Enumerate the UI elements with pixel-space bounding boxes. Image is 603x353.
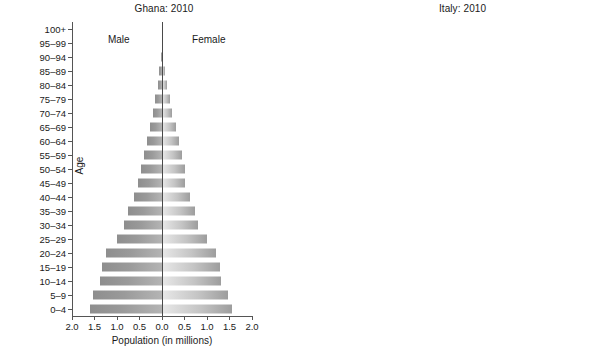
bar-female xyxy=(162,263,220,272)
y-axis-tick-label: 70–74 xyxy=(40,108,66,119)
bar-female xyxy=(162,221,198,230)
bar-female xyxy=(162,235,207,244)
bar-male xyxy=(93,291,162,300)
y-axis-tick-label: 30–34 xyxy=(40,220,66,231)
x-axis-tick-label: 0.5 xyxy=(133,321,146,332)
y-axis-tick-label: 45–49 xyxy=(40,178,66,189)
center-axis-ghana xyxy=(162,22,163,316)
x-axis-tick-label: 1.5 xyxy=(223,321,236,332)
y-axis-tick xyxy=(68,183,72,184)
x-axis-tick xyxy=(72,316,73,320)
y-axis-tick-label: 0–4 xyxy=(50,304,66,315)
population-pyramid-figure: Ghana: 2010 Male Female Population (in m… xyxy=(0,0,603,353)
bar-female xyxy=(162,249,216,258)
bar-female xyxy=(162,137,179,146)
bar-female xyxy=(162,81,167,90)
bar-female xyxy=(162,123,176,132)
y-axis-tick-label: 50–54 xyxy=(40,164,66,175)
bar-female xyxy=(162,193,190,202)
bar-male xyxy=(128,207,162,216)
y-axis-tick-label: 15–19 xyxy=(40,262,66,273)
bar-male xyxy=(147,137,162,146)
bar-male xyxy=(124,221,162,230)
x-axis-tick-label: 0.5 xyxy=(178,321,191,332)
bar-male xyxy=(138,179,162,188)
y-axis-tick-label: 85–89 xyxy=(40,66,66,77)
y-axis-tick xyxy=(68,127,72,128)
y-axis-tick xyxy=(68,141,72,142)
x-axis-tick xyxy=(94,316,95,320)
y-axis-tick xyxy=(68,85,72,86)
y-axis-tick xyxy=(68,309,72,310)
y-axis-tick xyxy=(68,57,72,58)
bar-male xyxy=(102,263,162,272)
y-axis-title-ghana: Age xyxy=(74,151,85,181)
x-axis-tick xyxy=(139,316,140,320)
y-axis-tick xyxy=(68,239,72,240)
y-axis-tick-label: 55–59 xyxy=(40,150,66,161)
chart-title-ghana: Ghana: 2010 xyxy=(0,3,300,14)
bar-male xyxy=(134,193,162,202)
y-axis-tick xyxy=(68,295,72,296)
y-axis-tick xyxy=(68,71,72,72)
bar-male xyxy=(100,277,162,286)
y-axis-tick xyxy=(68,29,72,30)
bar-male xyxy=(144,151,162,160)
legend-male-ghana: Male xyxy=(108,34,130,45)
bar-female xyxy=(162,95,170,104)
x-axis-tick xyxy=(207,316,208,320)
y-axis-tick-label: 80–84 xyxy=(40,80,66,91)
y-axis-tick xyxy=(68,267,72,268)
y-axis-tick xyxy=(68,113,72,114)
x-axis-tick xyxy=(252,316,253,320)
x-axis-tick xyxy=(184,316,185,320)
y-axis-tick xyxy=(68,281,72,282)
x-axis-tick xyxy=(117,316,118,320)
y-axis-tick xyxy=(68,211,72,212)
x-axis-tick-label: 1.0 xyxy=(110,321,123,332)
plot-area-ghana: Male Female Population (in millions) Age… xyxy=(72,22,252,316)
y-axis-tick-label: 95–99 xyxy=(40,38,66,49)
y-axis-tick-label: 90–94 xyxy=(40,52,66,63)
bar-male xyxy=(141,165,162,174)
legend-female-ghana: Female xyxy=(192,34,225,45)
bar-female xyxy=(162,305,232,314)
x-axis-tick-label: 1.5 xyxy=(88,321,101,332)
y-axis-tick xyxy=(68,99,72,100)
bar-female xyxy=(162,151,182,160)
bar-female xyxy=(162,179,185,188)
y-axis-tick xyxy=(68,169,72,170)
y-axis-tick xyxy=(68,43,72,44)
x-axis-tick-label: 2.0 xyxy=(65,321,78,332)
x-axis-tick xyxy=(162,316,163,320)
y-axis-tick xyxy=(68,225,72,226)
bar-male xyxy=(90,305,162,314)
chart-panel-ghana: Ghana: 2010 Male Female Population (in m… xyxy=(0,0,300,353)
y-axis-tick-label: 75–79 xyxy=(40,94,66,105)
bar-male xyxy=(150,123,162,132)
bar-female xyxy=(162,165,185,174)
bar-female xyxy=(162,291,228,300)
y-axis-tick xyxy=(68,253,72,254)
y-axis-tick-label: 40–44 xyxy=(40,192,66,203)
bar-female xyxy=(162,277,221,286)
y-axis-tick-label: 25–29 xyxy=(40,234,66,245)
bar-female xyxy=(162,207,195,216)
y-axis-tick-label: 60–64 xyxy=(40,136,66,147)
x-axis-tick-label: 1.0 xyxy=(200,321,213,332)
bar-female xyxy=(162,109,172,118)
y-axis-tick-label: 20–24 xyxy=(40,248,66,259)
bar-male xyxy=(106,249,162,258)
x-axis-tick-label: 0.0 xyxy=(155,321,168,332)
bar-male xyxy=(117,235,162,244)
y-axis-tick-label: 65–69 xyxy=(40,122,66,133)
x-axis-tick-label: 2.0 xyxy=(245,321,258,332)
y-axis-tick-label: 35–39 xyxy=(40,206,66,217)
x-axis-title-ghana: Population (in millions) xyxy=(72,335,252,346)
x-axis-tick xyxy=(229,316,230,320)
y-axis-tick xyxy=(68,155,72,156)
y-axis-tick-label: 100+ xyxy=(45,24,66,35)
y-axis-tick-label: 5–9 xyxy=(50,290,66,301)
y-axis-tick xyxy=(68,197,72,198)
y-axis-tick-label: 10–14 xyxy=(40,276,66,287)
